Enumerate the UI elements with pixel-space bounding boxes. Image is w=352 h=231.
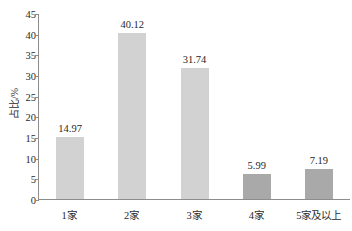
y-axis-tick-labels: 051015202530354045 bbox=[10, 0, 36, 231]
x-axis-category-label: 4家 bbox=[225, 207, 287, 223]
bar-group: 40.12 bbox=[101, 14, 163, 199]
bar-value-label: 5.99 bbox=[248, 160, 266, 172]
y-axis-tick-mark bbox=[35, 117, 39, 118]
bar[interactable] bbox=[56, 137, 84, 199]
bar-value-label: 7.19 bbox=[310, 155, 328, 167]
x-axis-tick-labels: 1家2家3家4家5家及以上 bbox=[38, 207, 350, 223]
bar-series: 14.9740.1231.745.997.19 bbox=[39, 14, 350, 199]
y-axis-tick-mark bbox=[35, 159, 39, 160]
y-axis-tick-mark bbox=[35, 179, 39, 180]
bar-value-label: 31.74 bbox=[183, 54, 207, 66]
bar-group: 14.97 bbox=[39, 14, 101, 199]
bar-value-label: 40.12 bbox=[120, 19, 144, 31]
y-axis-tick-mark bbox=[35, 138, 39, 139]
plot-area: 14.9740.1231.745.997.19 bbox=[38, 14, 350, 200]
bar[interactable] bbox=[181, 68, 209, 199]
y-axis-tick-mark bbox=[35, 76, 39, 77]
y-axis-tick-mark bbox=[35, 14, 39, 15]
bar[interactable] bbox=[243, 174, 271, 199]
x-axis-category-label: 2家 bbox=[100, 207, 162, 223]
y-axis-tick-mark bbox=[35, 35, 39, 36]
x-axis-category-label: 5家及以上 bbox=[288, 207, 350, 223]
bar-group: 5.99 bbox=[226, 14, 288, 199]
bar-group: 31.74 bbox=[163, 14, 225, 199]
y-axis-tick-mark bbox=[35, 97, 39, 98]
bar[interactable] bbox=[118, 33, 146, 199]
bar-value-label: 14.97 bbox=[58, 123, 82, 135]
x-axis-category-label: 3家 bbox=[163, 207, 225, 223]
y-axis-tick-mark bbox=[35, 55, 39, 56]
x-axis-category-label: 1家 bbox=[38, 207, 100, 223]
y-axis-tick-mark bbox=[35, 200, 39, 201]
bar-chart: 占比/% 051015202530354045 14.9740.1231.745… bbox=[0, 0, 352, 231]
bar[interactable] bbox=[305, 169, 333, 199]
bar-group: 7.19 bbox=[288, 14, 350, 199]
